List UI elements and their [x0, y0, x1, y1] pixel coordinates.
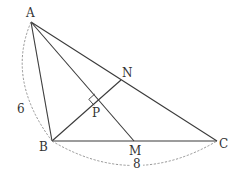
segment-ca: [31, 22, 217, 141]
label-point-a: A: [25, 6, 35, 20]
label-point-n: N: [122, 66, 133, 80]
label-point-p: P: [92, 106, 100, 120]
length-label-bc: 8: [133, 157, 141, 171]
length-label-ab: 6: [17, 102, 25, 116]
label-point-b: B: [39, 140, 48, 154]
label-point-m: M: [129, 144, 141, 158]
length-arc-ab: [22, 22, 52, 141]
segment-ab: [31, 22, 52, 141]
label-point-c: C: [219, 137, 228, 151]
segment-bn: [52, 80, 121, 141]
geometry-diagram: A B C M N P 6 8: [0, 0, 236, 177]
